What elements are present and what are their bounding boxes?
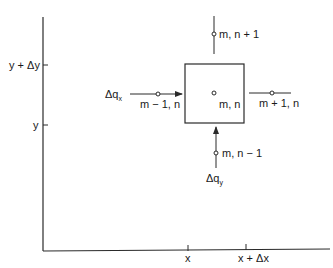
node-bottom (214, 151, 218, 155)
x-axis (43, 249, 330, 251)
x-tick-label-x-plus-dx: x + Δx (238, 252, 269, 264)
node-bottom-label: m, n − 1 (222, 147, 262, 159)
node-center (212, 91, 216, 95)
node-left (156, 92, 160, 96)
node-center-label: m, n (219, 98, 240, 110)
y-tick-label-y: y (33, 119, 39, 131)
y-tick-label-y-plus-dy: y + Δy (9, 59, 40, 71)
node-right-label: m + 1, n (259, 97, 299, 109)
flow-qx-label: Δqx (105, 88, 122, 102)
node-right (270, 91, 274, 95)
flow-qy-label: Δqy (206, 172, 223, 187)
node-left-label: m − 1, n (140, 98, 180, 110)
node-top (212, 32, 216, 36)
x-tick-label-x: x (185, 252, 191, 264)
diagram-canvas: y + Δy y x x + Δx m, n m, n + 1 m, n − 1… (0, 0, 333, 268)
node-top-label: m, n + 1 (219, 28, 259, 40)
